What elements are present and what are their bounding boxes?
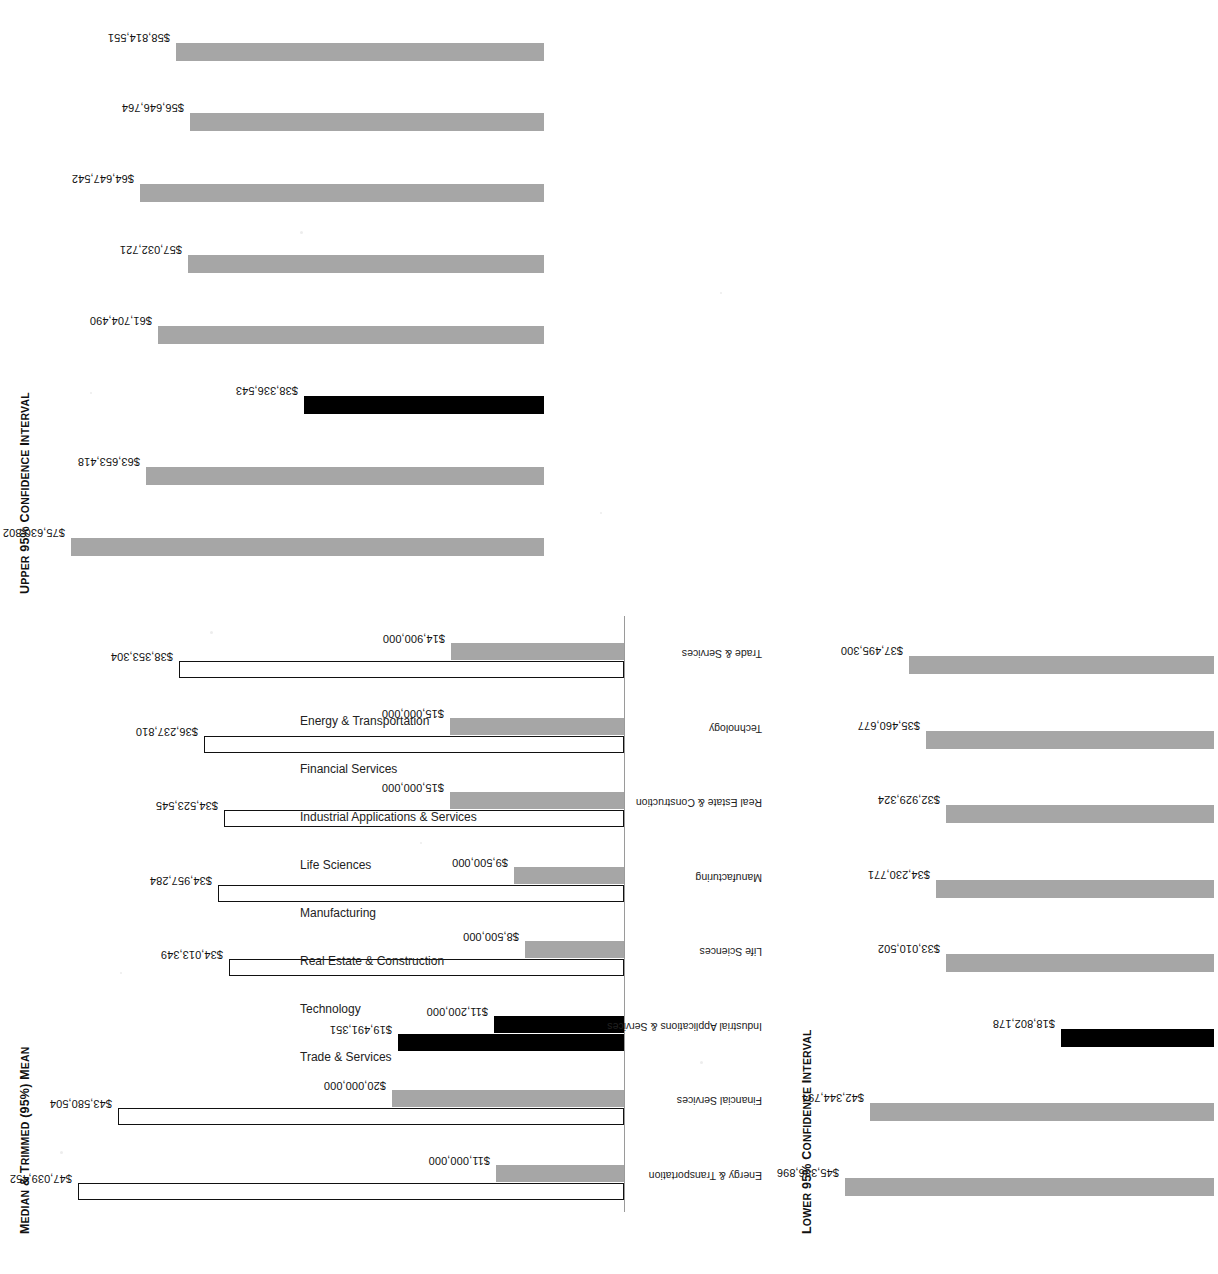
bar-upper-ci (140, 184, 544, 202)
value-label-upper-ci: $64,647,542 (72, 173, 134, 185)
value-label-lower-ci: $37,495,300 (841, 646, 903, 658)
bar-upper-ci (176, 43, 544, 61)
bar-median (496, 1165, 624, 1182)
bar-lower-ci (936, 880, 1214, 898)
category-label: Manufacturing (300, 906, 376, 920)
value-label-upper-ci: $56,646,764 (122, 103, 184, 115)
bar-upper-ci (71, 538, 544, 556)
title-seg: M (18, 1223, 32, 1234)
scan-speckle (700, 1061, 703, 1064)
value-label-upper-ci: $75,630,802 (3, 527, 65, 539)
bar-lower-ci (845, 1178, 1214, 1196)
title-seg: RIMMED (19, 1122, 31, 1166)
bar-upper-ci (146, 467, 544, 485)
value-label-upper-ci: $57,032,721 (120, 244, 182, 256)
bar-median (494, 1016, 624, 1033)
chart-title-upper-95-ci: UPPER 95% CONFIDENCE INTERVAL (18, 392, 32, 594)
category-label: Real Estate & Construction (300, 954, 444, 968)
title-seg: EAN (19, 1046, 31, 1069)
title-seg: I (800, 1079, 814, 1086)
chart-title-median-trimmed-mean: MEDIAN & TRIMMED (95%) MEAN (18, 1046, 32, 1234)
bar-median (392, 1091, 624, 1108)
plot-area-lower-95-ci: $45,386,896$42,344,794$18,802,178$33,010… (824, 620, 1214, 1216)
scan-speckle (300, 231, 303, 234)
title-seg: (95%) M (18, 1069, 32, 1121)
title-seg: OWER (801, 1193, 813, 1226)
value-label-median: $11,000,000 (429, 1155, 490, 1167)
value-label-upper-ci: $58,814,551 (108, 32, 170, 44)
category-label: Financial Services (677, 1096, 762, 1108)
category-label: Industrial Applications & Services (300, 810, 477, 824)
value-label-median: $14,900,000 (383, 634, 445, 646)
category-label: Technology (300, 1002, 361, 1016)
scan-speckle (90, 392, 92, 394)
value-label-upper-ci: $38,336,543 (236, 386, 298, 398)
title-seg: NTERVAL (801, 1029, 813, 1079)
value-label-trimmed-mean: $36,237,810 (136, 726, 198, 738)
category-label: Energy & Transportation (300, 714, 429, 728)
value-label-trimmed-mean: $34,013,349 (161, 950, 223, 962)
bar-lower-ci (926, 731, 1214, 749)
bar-lower-ci (946, 955, 1214, 973)
value-label-upper-ci: $63,653,418 (78, 456, 140, 468)
bar-median (451, 644, 624, 661)
plot-area-upper-95-ci: $75,630,802$63,653,418$38,336,543$61,704… (44, 10, 544, 576)
value-label-trimmed-mean: $34,957,284 (150, 875, 212, 887)
title-seg: ONFIDENCE (19, 450, 31, 514)
bar-trimmed-mean (118, 1109, 624, 1126)
bar-upper-ci (188, 255, 544, 273)
bar-lower-ci (909, 657, 1214, 675)
bar-trimmed-mean (179, 662, 624, 679)
scan-speckle (60, 1151, 63, 1154)
scan-speckle (720, 292, 722, 294)
category-label: Trade & Services (682, 649, 762, 661)
bar-lower-ci (946, 806, 1214, 824)
bar-upper-ci (190, 114, 544, 132)
value-label-trimmed-mean: $19,491,351 (330, 1024, 392, 1036)
bar-lower-ci (1061, 1029, 1214, 1047)
value-label-lower-ci: $42,344,794 (802, 1093, 864, 1105)
category-label: Industrial Applications & Services (607, 1021, 762, 1033)
title-seg: EDIAN (19, 1190, 31, 1224)
value-label-trimmed-mean: $34,523,545 (156, 801, 218, 813)
bar-upper-ci (158, 326, 544, 344)
scan-speckle (420, 842, 422, 844)
bar-lower-ci (870, 1104, 1214, 1122)
scan-speckle (120, 972, 122, 974)
bar-trimmed-mean (398, 1034, 624, 1051)
category-label: Trade & Services (300, 1050, 392, 1064)
value-label-median: $11,200,000 (427, 1006, 488, 1018)
title-seg: L (800, 1226, 814, 1234)
value-label-median: $20,000,000 (324, 1081, 386, 1093)
chart-title-lower-95-ci: LOWER 95% CONFIDENCE INTERVAL (800, 1029, 814, 1234)
value-label-lower-ci: $32,929,324 (878, 795, 940, 807)
value-label-lower-ci: $18,802,178 (993, 1018, 1055, 1030)
chart-lower-95-confidence-interval: LOWER 95% CONFIDENCE INTERVAL$45,386,896… (800, 614, 1218, 1234)
value-label-lower-ci: $45,386,896 (777, 1167, 839, 1179)
chart-lower-95-ci-wrapper (790, 1245, 791, 1246)
title-seg: NTERVAL (19, 392, 31, 442)
bar-trimmed-mean (78, 1183, 624, 1200)
value-label-trimmed-mean: $47,039,452 (10, 1173, 72, 1185)
bar-upper-ci (304, 397, 544, 415)
value-label-trimmed-mean: $43,580,504 (50, 1099, 112, 1111)
title-seg: U (18, 585, 32, 594)
title-seg: I (18, 442, 32, 449)
value-label-lower-ci: $33,010,502 (878, 944, 940, 956)
chart-upper-95-confidence-interval: UPPER 95% CONFIDENCE INTERVAL$75,630,802… (18, 4, 578, 594)
category-list-shared: Energy & TransportationFinancial Service… (300, 714, 720, 974)
category-label: Financial Services (300, 762, 397, 776)
scan-speckle (600, 512, 602, 514)
value-label-lower-ci: $34,230,771 (868, 869, 930, 881)
category-label: Life Sciences (300, 858, 371, 872)
title-seg: PPER (19, 555, 31, 584)
scan-speckle (210, 631, 213, 634)
category-label: Energy & Transportation (649, 1170, 762, 1182)
value-label-upper-ci: $61,704,490 (90, 315, 152, 327)
value-label-trimmed-mean: $38,353,304 (111, 652, 173, 664)
value-label-lower-ci: $35,460,677 (858, 720, 920, 732)
